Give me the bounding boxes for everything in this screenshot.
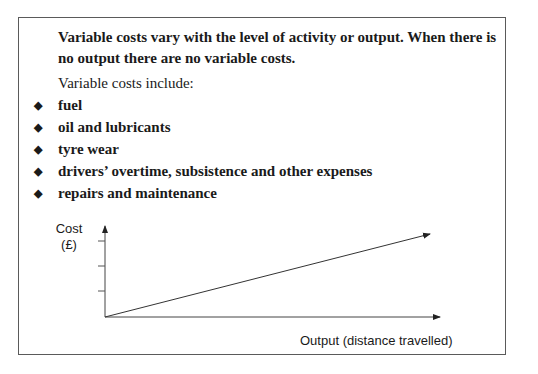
y-axis-label: Cost (£) [52, 221, 86, 253]
x-axis-label: Output (distance travelled) [300, 333, 452, 348]
variable-cost-diagram [0, 0, 538, 374]
variable-cost-line [105, 234, 430, 317]
